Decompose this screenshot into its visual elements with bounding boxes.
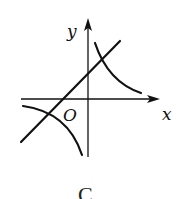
x-axis [21,95,160,103]
x-axis-label: x [162,104,172,124]
y-axis-label: y [66,21,77,41]
function-graph: y O x C [0,0,180,199]
figure-caption: C [78,182,93,199]
linear-function-line [21,41,120,142]
hyperbola-branch-quadrant-1 [95,43,141,93]
origin-label: O [63,105,77,125]
y-axis [84,18,92,157]
